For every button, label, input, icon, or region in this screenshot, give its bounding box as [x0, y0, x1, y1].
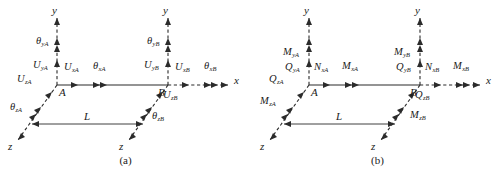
U-z-B-label: UzB: [163, 89, 178, 101]
theta-x-B-label: θxB: [204, 60, 216, 72]
M-z-A-label: MzA: [259, 95, 276, 107]
U-y-A-arrow: [54, 60, 60, 67]
U-x-A-label: UxA: [64, 61, 79, 73]
U-y-B-label: UyB: [144, 59, 159, 71]
M-y-A-arrow-1: [306, 38, 312, 45]
N-x-A-label: NxA: [313, 61, 328, 73]
Q-y-B-arrow: [417, 60, 423, 67]
M-x-A-label: MxA: [341, 60, 358, 72]
x-axis-arrowhead-a: [221, 82, 228, 88]
z-axis-label-left-a: z: [7, 140, 13, 152]
U-z-A-arrow: [45, 92, 52, 99]
M-x-B-arrow-2: [463, 82, 470, 88]
theta-x-A-arrow-2: [100, 82, 107, 88]
theta-z-A-label: θzA: [10, 101, 22, 113]
N-x-B-arrow: [434, 82, 441, 88]
z-axis-label-right-a: z: [118, 140, 124, 152]
length-label-b: L: [335, 110, 342, 122]
theta-z-B-arrow-1: [140, 114, 147, 121]
theta-x-A-label: θxA: [93, 60, 105, 72]
theta-z-B-arrow-2: [145, 107, 152, 114]
y-axis-left-arrowhead-a: [54, 18, 60, 25]
x-axis-arrowhead-b: [473, 82, 480, 88]
caption-b: (b): [252, 154, 503, 166]
caption-a: (a): [0, 154, 251, 166]
theta-y-A-arrow-2: [54, 45, 60, 52]
theta-y-B-label: θyB: [147, 35, 159, 47]
M-y-A-arrow-2: [306, 45, 312, 52]
M-x-B-label: MxB: [452, 60, 469, 72]
length-arrowhead-left-b: [284, 121, 291, 127]
z-axis-right-arrowhead-a: [129, 133, 136, 140]
panel-b: x y y z z A B L MyAQyANxAMxAQzAMzAMyBQyB…: [252, 0, 503, 180]
z-axis-label-right-b: z: [370, 140, 376, 152]
M-z-B-arrow-2: [397, 107, 404, 114]
M-x-B-arrow-1: [456, 82, 463, 88]
M-z-A-arrow-2: [286, 107, 293, 114]
y-axis-label-left-a: y: [51, 4, 57, 16]
y-axis-label-left-b: y: [303, 4, 309, 16]
M-y-B-arrow-1: [417, 38, 423, 45]
M-y-B-arrow-2: [417, 45, 423, 52]
U-x-B-label: UxB: [175, 61, 190, 73]
x-axis-label-b: x: [485, 74, 491, 86]
N-x-B-label: NxB: [424, 61, 439, 73]
quantity-labels-a: θyAUyAUxAθxAUzAθzAθyBUyBUxBθxBUzBθzB: [10, 35, 216, 122]
M-z-B-label: MzB: [409, 109, 426, 121]
N-x-A-arrow: [323, 82, 330, 88]
panel-a: x y y z z A B L θyAUyAUxAθxAUzAθzAθyBUyB…: [0, 0, 251, 180]
theta-y-B-arrow-1: [165, 38, 171, 45]
theta-y-A-arrow-1: [54, 38, 60, 45]
diagram-b: x y y z z A B L MyAQyANxAMxAQzAMzAMyBQyB…: [252, 0, 503, 180]
y-axis-label-right-b: y: [414, 4, 420, 16]
y-axis-right-arrowhead-a: [165, 18, 171, 25]
M-y-A-label: MyA: [282, 46, 299, 58]
y-axis-left-arrowhead-b: [306, 18, 312, 25]
node-label-A-b: A: [310, 86, 318, 98]
U-z-A-label: UzA: [17, 73, 32, 85]
node-label-A-a: A: [58, 86, 66, 98]
length-arrowhead-left-a: [32, 121, 39, 127]
diagram-a: x y y z z A B L θyAUyAUxAθxAUzAθzAθyBUyB…: [0, 0, 251, 180]
theta-z-A-arrow-1: [29, 114, 36, 121]
Q-z-B-label: QzB: [415, 89, 430, 101]
M-z-A-arrow-1: [281, 114, 288, 121]
length-arrowhead-right-b: [388, 121, 395, 127]
U-y-B-arrow: [165, 60, 171, 67]
z-axis-right-arrowhead-b: [381, 133, 388, 140]
length-label-a: L: [83, 110, 90, 122]
theta-x-B-arrow-2: [211, 82, 218, 88]
Q-y-A-arrow: [306, 60, 312, 67]
Q-z-A-arrow: [297, 92, 304, 99]
theta-y-A-label: θyA: [36, 35, 48, 47]
theta-z-B-label: θzB: [152, 110, 164, 122]
Q-y-A-label: QyA: [285, 61, 300, 73]
theta-x-A-arrow-1: [93, 82, 100, 88]
z-axis-left-arrowhead-b: [270, 133, 277, 140]
z-axis-label-left-b: z: [259, 140, 265, 152]
Q-y-B-label: QyB: [396, 61, 411, 73]
y-axis-right-arrowhead-b: [417, 18, 423, 25]
length-arrowhead-right-a: [136, 121, 143, 127]
Q-z-A-label: QzA: [269, 73, 284, 85]
M-y-B-label: MyB: [393, 46, 410, 58]
z-axis-left-arrowhead-a: [18, 133, 25, 140]
U-x-A-arrow: [71, 82, 78, 88]
M-x-A-arrow-1: [345, 82, 352, 88]
x-axis-label-a: x: [233, 74, 239, 86]
M-x-A-arrow-2: [352, 82, 359, 88]
y-axis-label-right-a: y: [162, 4, 168, 16]
theta-y-B-arrow-2: [165, 45, 171, 52]
U-y-A-label: UyA: [33, 59, 48, 71]
theta-z-A-arrow-2: [34, 107, 41, 114]
theta-x-B-arrow-1: [204, 82, 211, 88]
M-z-B-arrow-1: [392, 114, 399, 121]
U-x-B-arrow: [182, 82, 189, 88]
